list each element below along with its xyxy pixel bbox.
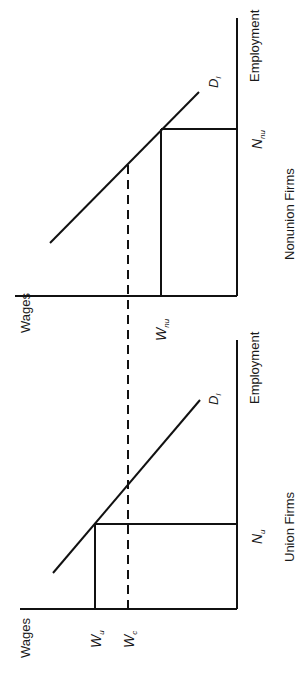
- nonunion-demand-label: Dl: [206, 77, 223, 88]
- union-employment-label: Nu: [249, 529, 267, 544]
- union-demand-label: Dl: [206, 394, 223, 405]
- union-demand-curve: [53, 400, 200, 573]
- union-y-axis-label: Wages: [18, 618, 33, 658]
- svg-text:Nnu: Nnu: [249, 129, 267, 149]
- competitive-wage-label: Wc: [121, 631, 139, 648]
- nonunion-y-axis-label: Wages: [18, 293, 33, 333]
- nonunion-employment-label: Nnu: [249, 129, 267, 149]
- svg-text:Wc: Wc: [121, 631, 139, 648]
- nonunion-demand-curve: [50, 92, 199, 243]
- svg-text:Dl: Dl: [206, 394, 223, 405]
- svg-text:Wnu: Wnu: [153, 318, 171, 341]
- nonunion-wage-label: Wnu: [153, 318, 171, 341]
- svg-text:Dl: Dl: [206, 77, 223, 88]
- svg-text:Nu: Nu: [249, 529, 267, 544]
- union-panel: Wages Employment Union Firms Dl Wu Wc Nu: [18, 331, 297, 658]
- union-wage-label: Wu: [88, 630, 106, 648]
- nonunion-panel: Wages Employment Nonunion Firms Dl Wnu N…: [15, 9, 297, 341]
- svg-text:Wu: Wu: [88, 630, 106, 648]
- nonunion-caption: Nonunion Firms: [282, 168, 297, 260]
- nonunion-x-axis-label: Employment: [247, 9, 262, 82]
- union-x-axis-label: Employment: [247, 331, 262, 404]
- union-caption: Union Firms: [282, 491, 297, 562]
- union-nonunion-wage-diagram: Wages Employment Nonunion Firms Dl Wnu N…: [0, 0, 307, 687]
